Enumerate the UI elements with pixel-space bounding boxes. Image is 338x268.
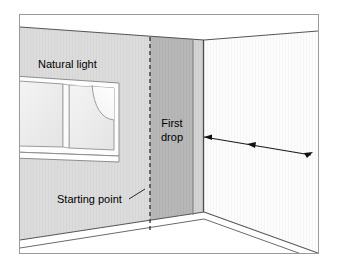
- window-mullion: [63, 84, 69, 148]
- label-first-drop-line1: First: [161, 117, 182, 129]
- label-first-drop-line2: drop: [161, 131, 183, 143]
- label-natural-light: Natural light: [38, 58, 97, 70]
- wallpaper-room-diagram: Natural light First drop Starting point: [0, 0, 338, 268]
- window-pane-left: [19, 81, 63, 147]
- corner-return-strip: [193, 39, 204, 215]
- window: [14, 76, 119, 162]
- label-starting-point: Starting point: [57, 193, 122, 205]
- room-scene: Natural light First drop Starting point: [14, 15, 318, 260]
- diagram-canvas: Natural light First drop Starting point: [0, 0, 338, 268]
